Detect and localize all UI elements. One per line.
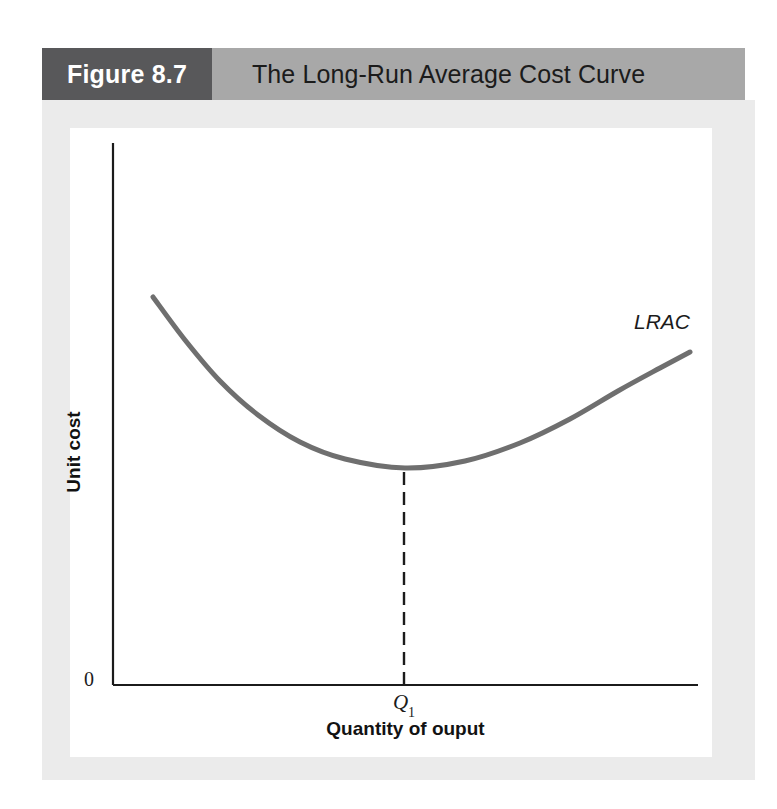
q1-tick-label: Q1 — [368, 690, 440, 718]
axis-origin-label: 0 — [84, 668, 94, 691]
figure-header-bar: Figure 8.7 The Long-Run Average Cost Cur… — [42, 48, 745, 100]
x-axis-title: Quantity of ouput — [113, 718, 698, 740]
q1-tick-base: Q — [393, 690, 408, 714]
figure-container: Figure 8.7 The Long-Run Average Cost Cur… — [0, 0, 777, 809]
q1-tick-subscript: 1 — [408, 705, 415, 720]
figure-title-box: The Long-Run Average Cost Curve — [212, 48, 745, 100]
figure-number-label: Figure 8.7 — [67, 60, 187, 89]
figure-title-label: The Long-Run Average Cost Curve — [252, 60, 645, 89]
y-axis-title: Unit cost — [63, 372, 85, 532]
figure-number-box: Figure 8.7 — [42, 48, 212, 100]
plot-area — [70, 128, 712, 757]
lrac-curve-label: LRAC — [634, 310, 690, 334]
